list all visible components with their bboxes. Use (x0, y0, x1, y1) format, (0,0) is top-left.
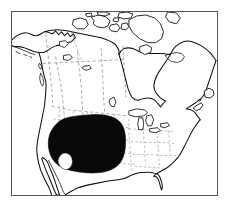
border-state-east-vert-1 (129, 119, 132, 170)
border-state-east-3 (133, 154, 179, 155)
lake-michigan (138, 118, 144, 130)
border-us-canada (52, 106, 127, 116)
border-nwt-nunavut (71, 32, 83, 62)
prince-of-wales-island (109, 24, 120, 32)
victoria-island (91, 15, 110, 28)
border-state-east-vert-3 (157, 127, 160, 167)
coastline-group (12, 30, 216, 195)
border-state-east-vert-4 (168, 131, 170, 155)
lake-winnipeg (109, 97, 116, 107)
distribution-range-gap (58, 153, 72, 169)
lake-athabasca (82, 65, 91, 70)
lake-ontario (161, 123, 170, 128)
gulf-and-atlantic-coast (125, 120, 200, 190)
border-60th-parallel (43, 59, 123, 63)
baffin-island (129, 15, 164, 43)
mexico-gulf-coast (65, 178, 124, 195)
banks-island (72, 18, 88, 29)
nova-scotia (193, 103, 203, 111)
lake-erie (150, 128, 161, 133)
map-canvas (12, 12, 217, 195)
haida-gwaii (39, 63, 42, 69)
great-bear-lake (60, 41, 69, 48)
somerset-island (121, 23, 129, 30)
lake-huron (146, 115, 154, 126)
small-arctic-island-2 (85, 13, 92, 17)
newfoundland-island (204, 88, 214, 98)
labrador-coast (170, 41, 216, 61)
border-yukon-nwt (46, 34, 53, 103)
map-frame (11, 11, 218, 196)
distribution-range-group (48, 115, 125, 173)
lake-superior (129, 109, 148, 117)
hudson-bay-coast (119, 48, 170, 107)
border-bc-alberta (56, 57, 65, 119)
arctic-mainland-coast (45, 30, 119, 55)
southampton-island (140, 45, 152, 55)
melville-island (97, 12, 110, 16)
range-map-figure (0, 0, 230, 211)
border-state-east-4 (135, 166, 165, 168)
pacific-coast (37, 53, 52, 195)
great-slave-lake (63, 55, 72, 61)
small-arctic-island-1 (113, 18, 119, 22)
vancouver-island (40, 73, 44, 86)
ellesmere-island (118, 12, 133, 19)
greenland-edge (166, 12, 181, 24)
border-saskatchewan-manitoba (101, 48, 105, 118)
